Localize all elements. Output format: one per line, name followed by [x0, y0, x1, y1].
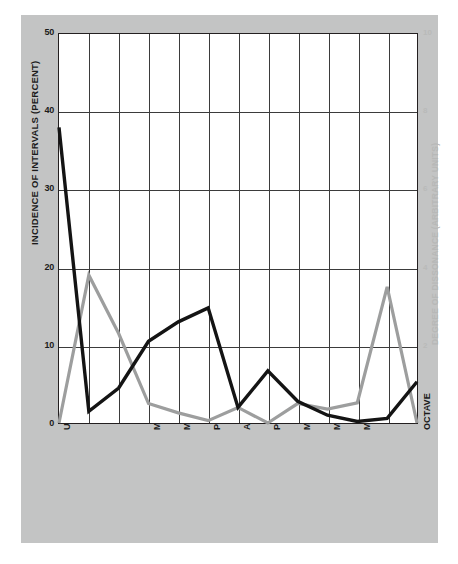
- y-tick-label: 30: [32, 183, 54, 193]
- series-line: [59, 275, 417, 423]
- y-tick-label: 20: [32, 262, 54, 272]
- y-tick-label-right: 10: [423, 28, 443, 37]
- y-tick-label-right: 4: [423, 263, 443, 272]
- y-tick-label: 10: [32, 340, 54, 350]
- x-tick-label: OCTAVE: [422, 393, 432, 430]
- y-tick-label: 50: [32, 27, 54, 37]
- y-axis-title-left: INCIDENCE OF INTERVALS (PERCENT): [29, 61, 40, 245]
- y-tick-label-right: 2: [423, 341, 443, 350]
- plot-area: [58, 33, 418, 424]
- y-tick-label-right: 6: [423, 184, 443, 193]
- y-tick-label: 0: [32, 418, 54, 428]
- series-lines: [59, 34, 417, 423]
- figure-panel: INCIDENCE OF INTERVALS (PERCENT) DEGREE …: [21, 15, 438, 543]
- y-tick-label-right: 8: [423, 106, 443, 115]
- y-tick-label: 40: [32, 105, 54, 115]
- y-axis-title-right: DEGREE OF DISSONANCE (ARBITRARY UNITS): [430, 143, 440, 345]
